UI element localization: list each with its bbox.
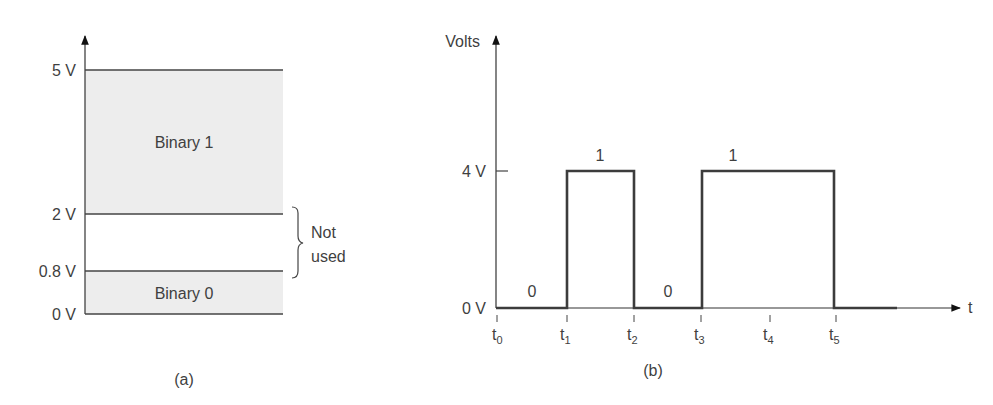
digital-signal — [496, 171, 897, 308]
level-label-0-8v: 0.8 V — [39, 263, 77, 280]
bit-label-t2-t3: 0 — [664, 283, 673, 300]
time-label-t3: t3 — [694, 326, 705, 346]
level-label-0v: 0 V — [52, 306, 76, 323]
not-used-label-line2: used — [311, 248, 346, 265]
time-label-t1: t1 — [560, 326, 571, 346]
time-label-t2: t2 — [627, 326, 638, 346]
y-tick-label-4v: 4 V — [462, 163, 486, 180]
time-label-t5: t5 — [829, 326, 840, 346]
y-tick-label-0v: 0 V — [462, 300, 486, 317]
bit-label-t3-t5: 1 — [729, 147, 738, 164]
binary-1-label: Binary 1 — [155, 134, 214, 151]
figure-b: Volts t 4 V 0 V 0 1 0 1 t0 t1 t2 t3 t4 t… — [445, 33, 973, 379]
figure-a-caption: (a) — [174, 371, 194, 388]
not-used-label-line1: Not — [311, 224, 336, 241]
level-label-2v: 2 V — [52, 206, 76, 223]
time-ticks — [497, 315, 836, 322]
not-used-brace-icon — [292, 207, 303, 278]
level-label-5v: 5 V — [52, 62, 76, 79]
bit-label-t0-t1: 0 — [528, 283, 537, 300]
time-label-t4: t4 — [763, 326, 774, 346]
time-axis-label: t — [968, 299, 973, 316]
bit-label-t1-t2: 1 — [596, 147, 605, 164]
volts-axis-label: Volts — [445, 33, 480, 50]
time-label-t0: t0 — [492, 326, 503, 346]
figure-a: 5 V 2 V 0.8 V 0 V Binary 1 Binary 0 Not … — [39, 36, 346, 388]
binary-0-label: Binary 0 — [155, 285, 214, 302]
figure-b-caption: (b) — [643, 362, 663, 379]
